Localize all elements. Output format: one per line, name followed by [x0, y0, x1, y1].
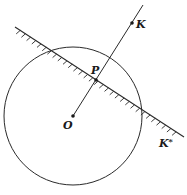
hatch-mark	[162, 125, 166, 129]
hatch-mark	[73, 68, 77, 72]
hatch-mark	[27, 37, 31, 41]
hatch-mark	[105, 88, 109, 92]
label-k-star: K*	[158, 136, 174, 150]
label-k: K	[135, 18, 146, 31]
hatch-mark	[84, 74, 88, 78]
hatch-mark	[16, 30, 20, 34]
hatch-mark	[21, 34, 25, 38]
hatch-mark	[32, 41, 36, 45]
hatched-line	[15, 27, 184, 137]
hatch-mark	[146, 115, 150, 119]
label-k-star-base: K	[158, 137, 169, 150]
hatch-mark	[79, 71, 83, 75]
hatch-mark	[172, 132, 176, 136]
point-p	[94, 78, 98, 82]
label-p: P	[90, 64, 100, 77]
hatch-mark	[58, 57, 62, 61]
hatch-mark	[136, 108, 140, 112]
label-o: O	[63, 119, 73, 132]
hatch-mark	[68, 64, 72, 68]
hatch-mark	[89, 78, 93, 82]
hatch-mark	[167, 129, 171, 133]
hatch-mark	[120, 98, 124, 102]
hatch-mark	[63, 61, 67, 65]
hatch-mark	[110, 91, 114, 95]
hatch-mark	[157, 122, 161, 126]
hatch-mark	[53, 54, 57, 58]
label-k-star-sup: *	[169, 136, 174, 146]
hatch-mark	[37, 44, 41, 48]
hatch-mark	[42, 47, 46, 51]
hatch-mark	[125, 101, 129, 105]
hatch-mark	[131, 105, 135, 109]
geometry-diagram: O P K K*	[0, 0, 187, 195]
point-o	[71, 114, 75, 118]
point-k	[130, 21, 134, 25]
hatch-mark	[99, 85, 103, 89]
hatch-mark	[115, 95, 119, 99]
hatch-mark	[151, 118, 155, 122]
